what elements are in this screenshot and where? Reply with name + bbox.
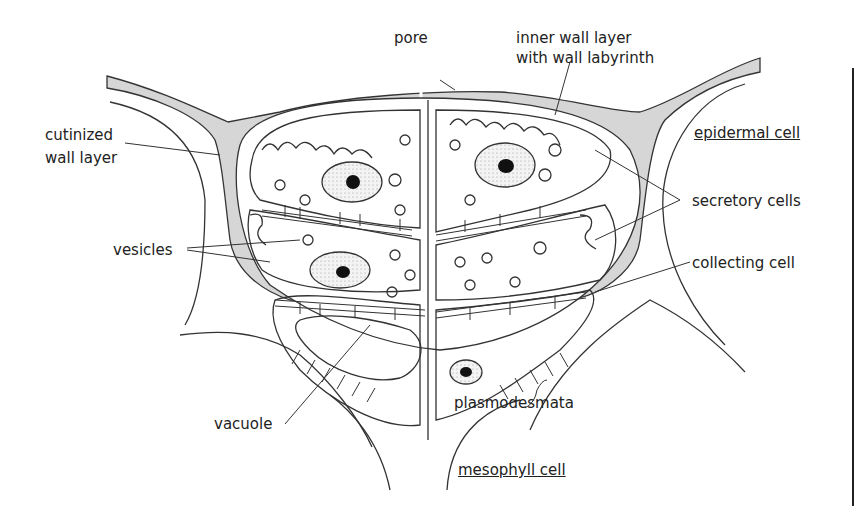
label-cutinized-2: wall layer (45, 150, 117, 167)
left-epidermal-boundary (110, 102, 205, 325)
label-plasmodesmata: plasmodesmata (454, 395, 574, 412)
label-collecting-cell: collecting cell (692, 255, 795, 272)
page-edge-line (852, 68, 854, 506)
label-epidermal-cell: epidermal cell (694, 125, 800, 142)
label-pore: pore (394, 30, 428, 47)
label-inner-wall-2: with wall labyrinth (516, 50, 654, 67)
mesophyll-left (180, 332, 372, 447)
label-vesicles: vesicles (113, 242, 173, 259)
label-vacuole: vacuole (214, 416, 272, 433)
label-mesophyll-cell: mesophyll cell (458, 462, 566, 479)
label-secretory-cells: secretory cells (692, 193, 801, 210)
label-cutinized: cutinized (45, 127, 113, 144)
label-inner-wall: inner wall layer (516, 30, 632, 47)
